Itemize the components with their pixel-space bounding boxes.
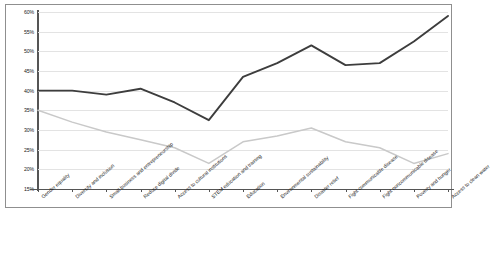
line-series-light [38,110,448,163]
y-axis-tick-label: 45% [4,68,34,74]
y-axis-tick-label: 35% [4,107,34,113]
y-axis-tick-label: 60% [4,9,34,15]
y-axis-tick-label: 30% [4,127,34,133]
line-series-dark [38,16,448,120]
x-axis-tick [209,189,210,192]
x-axis-tick [38,189,39,192]
x-axis-tick [311,189,312,192]
y-axis-tick-label: 25% [4,147,34,153]
x-axis-tick [175,189,176,192]
x-axis-tick [106,189,107,192]
x-axis-tick [243,189,244,192]
y-axis-labels: 60%55%50%45%40%35%30%25%20%15% [0,0,34,262]
x-axis-tick [346,189,347,192]
y-axis-tick-label: 50% [4,48,34,54]
y-axis-tick-label: 55% [4,29,34,35]
x-axis-tick [414,189,415,192]
x-axis-tick [277,189,278,192]
y-axis-tick-label: 20% [4,166,34,172]
x-axis-tick-label: Access to clean water [450,163,490,199]
x-axis-tick [380,189,381,192]
x-axis-tick [141,189,142,192]
x-axis-tick [72,189,73,192]
y-axis-tick-label: 40% [4,88,34,94]
x-axis-tick [448,189,449,192]
